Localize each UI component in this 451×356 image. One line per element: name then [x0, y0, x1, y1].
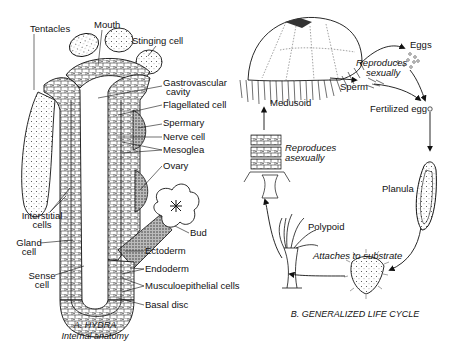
label-sense-cell: cell — [28, 280, 56, 290]
label-gastrovascular-cavity: cavity — [166, 87, 190, 97]
label-medusoid: Medusoid — [270, 98, 311, 108]
label-sperm: Sperm — [340, 82, 368, 92]
label-musculoepithelial-cells: Musculoepithelial cells — [145, 281, 240, 291]
caption-a-subtitle: Internal anatomy — [40, 331, 150, 342]
strobila-drawing — [244, 135, 290, 198]
label-interstitial-cells: cells — [20, 220, 64, 230]
diagram-drawing — [0, 0, 451, 356]
label-spermary: Spermary — [163, 118, 204, 128]
label-asexually: asexually — [285, 153, 325, 163]
label-stinging-cell: Stinging cell — [132, 36, 183, 46]
label-attaches-to-substrate: Attaches to substrate — [313, 251, 402, 261]
label-endoderm: Endoderm — [145, 264, 189, 274]
label-ovary: Ovary — [163, 161, 188, 171]
label-mouth: Mouth — [94, 20, 120, 30]
label-fertilized-egg: Fertilized egg — [370, 104, 427, 114]
label-sexually: sexually — [366, 68, 400, 78]
label-nerve-cell: Nerve cell — [163, 132, 205, 142]
planula-drawing — [416, 162, 436, 230]
label-planula: Planula — [382, 184, 414, 194]
label-gland-cell: cell — [16, 247, 42, 257]
label-mesoglea: Mesoglea — [163, 145, 204, 155]
label-eggs: Eggs — [410, 40, 432, 50]
label-basal-disc: Basal disc — [145, 300, 188, 310]
label-flagellated-cell: Flagellated cell — [163, 100, 226, 110]
label-tentacles: Tentacles — [30, 24, 70, 34]
label-bud: Bud — [190, 228, 207, 238]
caption-b: B. GENERALIZED LIFE CYCLE — [270, 309, 440, 320]
fertilized-egg-drawing — [428, 107, 432, 111]
sperm-drawing — [366, 78, 384, 88]
label-polypoid: Polypoid — [308, 222, 344, 232]
caption-a-title: A. HYDRA — [40, 320, 150, 331]
label-ectoderm: Ectoderm — [145, 246, 186, 256]
